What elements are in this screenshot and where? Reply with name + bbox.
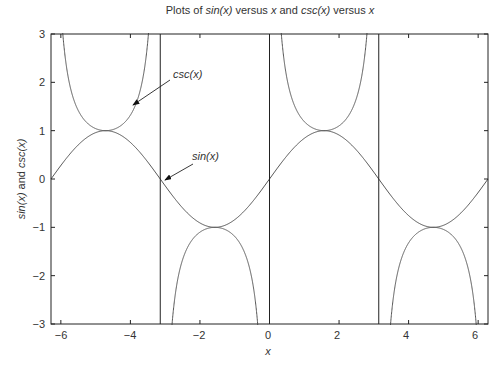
y-tick-label: 3 [39, 28, 45, 40]
csc-curve [281, 33, 367, 131]
csc-annotation-arrow [133, 80, 170, 105]
csc-curve [63, 33, 149, 131]
x-tick-label: 4 [403, 329, 409, 341]
csc-annotation-label: csc(x) [173, 68, 203, 80]
x-tick-label: 2 [334, 329, 340, 341]
y-tick-label: −3 [32, 318, 45, 330]
csc-curve [390, 227, 476, 325]
y-tick-label: −2 [32, 270, 45, 282]
sin-annotation-arrow [165, 164, 193, 180]
y-tick-labels: 3 2 1 0 −1 −2 −3 [32, 28, 45, 330]
x-tick-label: −2 [193, 329, 206, 341]
x-tick-label: −4 [124, 329, 137, 341]
y-tick-label: 0 [39, 173, 45, 185]
x-tick-label: 0 [265, 329, 271, 341]
y-tick-label: 2 [39, 76, 45, 88]
chart-title: Plots of sin(x) versus x and csc(x) vers… [166, 4, 375, 16]
csc-curve [172, 227, 258, 325]
y-tick-label: −1 [32, 221, 45, 233]
x-tick-labels: −6 −4 −2 0 2 4 6 [55, 329, 478, 341]
chart: Plots of sin(x) versus x and csc(x) vers… [0, 0, 504, 366]
x-tick-label: −6 [55, 329, 68, 341]
y-tick-label: 1 [39, 125, 45, 137]
sin-annotation-label: sin(x) [192, 150, 219, 162]
y-axis-label: sin(x) and csc(x) [15, 138, 27, 219]
x-tick-label: 6 [472, 329, 478, 341]
x-axis-label: x [264, 345, 271, 357]
